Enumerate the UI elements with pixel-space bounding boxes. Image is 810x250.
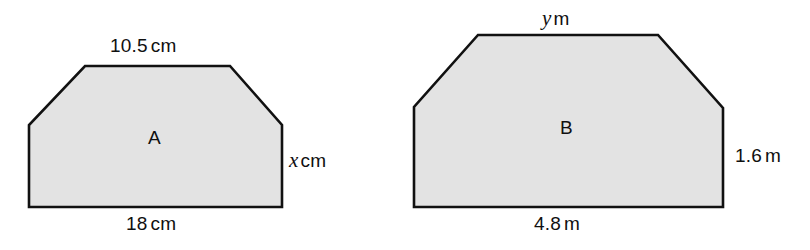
- shape-a-top-length-label: 10.5cm: [110, 36, 177, 55]
- shape-a-bottom-length-label: 18cm: [126, 214, 176, 233]
- shape-b-right-length-unit: m: [765, 145, 781, 166]
- shape-a-name-label: A: [148, 128, 161, 147]
- shape-b-top-length-label: ym: [542, 8, 570, 29]
- shape-a-top-length-value: 10.5: [110, 35, 148, 56]
- shape-a-bottom-length-unit: cm: [151, 213, 177, 234]
- shape-a-top-length-unit: cm: [151, 35, 177, 56]
- shape-b-top-variable: y: [542, 6, 554, 30]
- geometry-figure: 10.5cm 18cm xcm A ym 4.8m 1.6m B: [0, 0, 810, 250]
- shape-a-right-length-unit: cm: [301, 150, 327, 171]
- shape-b-right-length-value: 1.6: [735, 145, 762, 166]
- shape-a-right-variable: x: [289, 148, 301, 172]
- shape-a-bottom-length-value: 18: [126, 213, 148, 234]
- shape-b-name-label: B: [560, 118, 573, 137]
- shape-b-bottom-length-value: 4.8: [534, 213, 561, 234]
- shape-b-top-length-unit: m: [554, 8, 570, 29]
- shape-b-bottom-length-unit: m: [564, 213, 580, 234]
- shape-a-right-length-label: xcm: [289, 150, 326, 171]
- shape-b-right-length-label: 1.6m: [735, 146, 781, 165]
- shape-b-bottom-length-label: 4.8m: [534, 214, 580, 233]
